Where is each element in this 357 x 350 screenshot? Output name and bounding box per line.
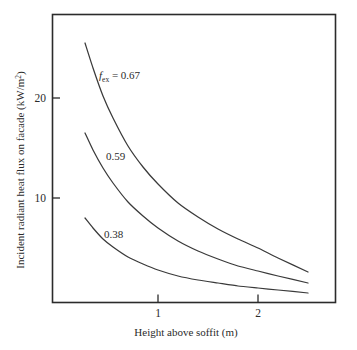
- line-chart-svg: 20 10 1 2 fex = 0.67 0.59 0.38 Height ab…: [0, 0, 357, 350]
- y-tick-label-10: 10: [35, 192, 47, 204]
- plot-frame: [53, 15, 336, 303]
- chart-figure: 20 10 1 2 fex = 0.67 0.59 0.38 Height ab…: [0, 0, 357, 350]
- x-tick-label-2: 2: [255, 307, 261, 319]
- x-tick-label-1: 1: [155, 307, 161, 319]
- curve-label-fex-value: = 0.67: [109, 69, 140, 81]
- y-axis-title-main: Incident radiant heat flux on facade (kW…: [14, 78, 27, 268]
- curve-label-fex-067: fex = 0.67: [99, 69, 141, 84]
- y-tick-label-20: 20: [35, 92, 47, 104]
- curve-label-059: 0.59: [106, 150, 126, 162]
- y-axis-title-tail: ): [14, 71, 27, 75]
- y-axis-title: Incident radiant heat flux on facade (kW…: [14, 71, 28, 269]
- curve-label-038: 0.38: [104, 228, 124, 240]
- x-axis-title: Height above soffit (m): [134, 326, 238, 339]
